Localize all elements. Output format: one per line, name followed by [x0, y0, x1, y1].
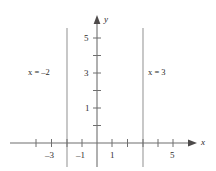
x-tick-label-minus-3: –3	[45, 151, 54, 160]
x-tick-label-minus-1: –1	[76, 151, 85, 160]
y-tick-label-3: 3	[84, 69, 89, 78]
x-axis-arrowhead-icon	[188, 140, 197, 147]
label-x-equals-3: x = 3	[148, 68, 166, 77]
y-tick-label-1: 1	[85, 104, 90, 113]
label-x-equals-minus-2: x = –2	[28, 68, 50, 77]
figure-canvas: –3 –1 1 5 5 3 1 y x x = –2 x = 3	[0, 0, 216, 171]
y-tick-label-5: 5	[84, 34, 89, 43]
coordinate-plane-graphic	[0, 0, 216, 171]
x-axis-label: x	[201, 138, 205, 147]
y-axis-arrowhead-icon	[94, 15, 101, 24]
x-tick-label-1: 1	[110, 151, 115, 160]
y-axis-label: y	[104, 15, 108, 24]
x-tick-label-5: 5	[170, 151, 175, 160]
